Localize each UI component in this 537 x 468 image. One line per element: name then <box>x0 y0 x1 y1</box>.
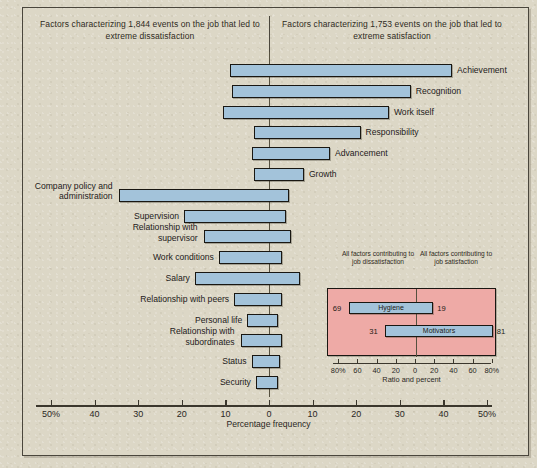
bar-row: Salary <box>0 270 537 288</box>
inset-axis-tick <box>396 359 397 363</box>
inset-caption-satisfaction: All factors contributing to job satisfac… <box>418 250 494 266</box>
bar-advancement <box>252 147 330 160</box>
bar-growth <box>254 168 304 181</box>
axis-tick-label: 20 <box>351 409 361 419</box>
inset-axis-tick-label: 0 <box>413 366 417 375</box>
inset-axis-tick-label: 60 <box>468 366 476 375</box>
bar-row: Relationship with supervisor <box>0 228 537 246</box>
bar-relationship-with-supervisor <box>204 230 291 243</box>
inset-axis-tick <box>377 359 378 363</box>
inset-x-axis-title: Ratio and percent <box>327 375 496 384</box>
bar-label: Salary <box>166 273 190 284</box>
bar-row: Work itself <box>0 104 537 122</box>
inset-caption-dissatisfaction: All factors contributing to job dissatis… <box>340 250 416 266</box>
inset-value-left: 69 <box>333 304 341 313</box>
bar-row: Achievement <box>0 62 537 80</box>
bar-company-policy-and-administration <box>119 189 289 202</box>
bar-personal-life <box>247 314 278 327</box>
bar-achievement <box>230 64 452 77</box>
axis-tick <box>356 400 357 405</box>
bar-label: Growth <box>309 169 337 180</box>
bar-salary <box>195 272 300 285</box>
bar-label: Security <box>220 377 251 388</box>
bar-row: Advancement <box>0 145 537 163</box>
inset-axis-tick <box>415 359 416 363</box>
inset-axis-tick-label: 40 <box>449 366 457 375</box>
bar-status <box>252 355 280 368</box>
bar-label: Personal life <box>195 315 242 326</box>
axis-tick <box>269 400 270 405</box>
bar-label: Achievement <box>457 65 507 76</box>
axis-tick <box>487 400 488 405</box>
axis-tick-label: 0 <box>266 409 271 419</box>
bar-label: Supervision <box>134 211 179 222</box>
inset-x-axis <box>333 363 491 364</box>
bar-supervision <box>184 210 286 223</box>
axis-tick <box>51 400 52 405</box>
inset-axis-tick-label: 60 <box>353 366 361 375</box>
axis-tick <box>313 400 314 405</box>
bar-row: Responsibility <box>0 124 537 142</box>
bar-relationship-with-subordinates <box>241 334 282 347</box>
inset-axis-tick <box>473 359 474 363</box>
bar-work-conditions <box>219 251 282 264</box>
axis-tick <box>138 400 139 405</box>
bar-row: Company policy and administration <box>0 187 537 205</box>
inset-axis-tick <box>338 359 339 363</box>
bar-label: Work conditions <box>153 252 214 263</box>
axis-tick-label: 40 <box>90 409 100 419</box>
inset-axis-tick <box>357 359 358 363</box>
header-satisfaction: Factors characterizing 1,753 events on t… <box>276 19 508 42</box>
axis-tick-label: 30 <box>395 409 405 419</box>
bar-label: Responsibility <box>366 127 419 138</box>
bar-label: Relationship with peers <box>140 294 229 305</box>
inset-axis-tick <box>492 359 493 363</box>
inset-panel <box>327 288 496 356</box>
bar-label: Company policy and administration <box>27 181 113 202</box>
header-divider <box>269 16 270 52</box>
axis-tick <box>95 400 96 405</box>
inset-zero-line <box>416 289 417 357</box>
axis-tick-label: 10 <box>308 409 318 419</box>
axis-tick <box>225 400 226 405</box>
axis-tick-label: 10 <box>220 409 230 419</box>
header-dissatisfaction: Factors characterizing 1,844 events on t… <box>34 19 266 42</box>
x-axis <box>36 405 492 407</box>
inset-axis-tick-label: 40 <box>372 366 380 375</box>
bar-label: Recognition <box>416 86 461 97</box>
inset-axis-tick <box>434 359 435 363</box>
bar-label: Status <box>222 356 246 367</box>
bar-label: Advancement <box>335 148 388 159</box>
bar-work-itself <box>223 106 389 119</box>
axis-tick-label: 50% <box>42 409 60 419</box>
inset-axis-tick <box>453 359 454 363</box>
axis-tick <box>400 400 401 405</box>
bar-label: Relationship with subordinates <box>149 326 235 347</box>
inset-axis-tick-label: 20 <box>392 366 400 375</box>
bar-security <box>256 376 278 389</box>
bar-label: Work itself <box>394 107 434 118</box>
x-axis-title: Percentage frequency <box>0 419 537 429</box>
axis-tick <box>443 400 444 405</box>
axis-tick-label: 50% <box>478 409 496 419</box>
inset-value-right: 81 <box>497 327 505 336</box>
bar-label: Relationship with supervisor <box>112 222 198 243</box>
axis-tick-label: 40 <box>438 409 448 419</box>
bar-row: Recognition <box>0 83 537 101</box>
figure-page: Factors characterizing 1,844 events on t… <box>0 0 537 468</box>
bar-recognition <box>232 85 411 98</box>
inset-axis-tick-label: 80% <box>484 366 499 375</box>
inset-bar-motivators: Motivators <box>385 325 493 337</box>
inset-value-left: 31 <box>369 327 377 336</box>
inset-value-right: 19 <box>437 304 445 313</box>
bar-row: Supervision <box>0 208 537 226</box>
bar-responsibility <box>254 126 361 139</box>
axis-tick-label: 20 <box>177 409 187 419</box>
axis-tick <box>182 400 183 405</box>
inset-axis-tick-label: 80% <box>331 366 346 375</box>
inset-axis-tick-label: 20 <box>430 366 438 375</box>
bar-relationship-with-peers <box>234 293 282 306</box>
inset-bar-hygiene: Hygiene <box>349 302 433 314</box>
axis-tick-label: 30 <box>133 409 143 419</box>
